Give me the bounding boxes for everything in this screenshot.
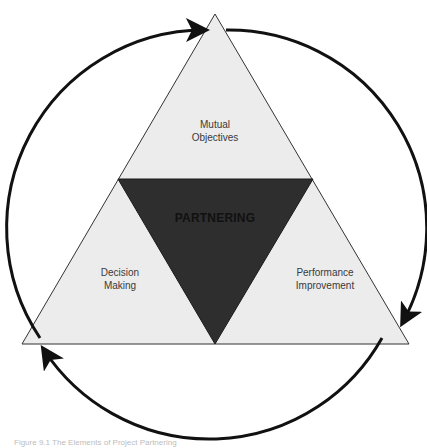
segment-top-line2: Objectives [165,131,265,144]
segment-label-left: Decision Making [80,266,160,292]
segment-label-right: Performance Improvement [275,266,375,292]
segment-right-line1: Performance [275,266,375,279]
cycle-arrow-right-to-left [44,338,382,439]
segment-right-line2: Improvement [275,279,375,292]
segment-left-line2: Making [80,279,160,292]
center-label: PARTNERING [160,211,270,225]
segment-top-line1: Mutual [165,118,265,131]
segment-label-top: Mutual Objectives [165,118,265,144]
figure-caption: Figure 9.1 The Elements of Project Partn… [14,438,177,447]
segment-left-line1: Decision [80,266,160,279]
